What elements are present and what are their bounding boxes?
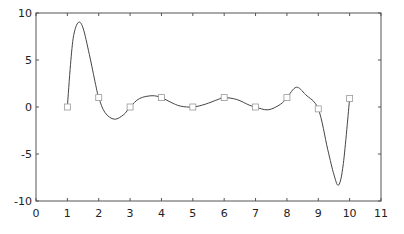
- x-tick-label: 11: [374, 207, 388, 220]
- x-tick-label: 3: [127, 207, 134, 220]
- data-point-marker: [96, 95, 102, 101]
- data-point-marker: [190, 104, 196, 110]
- y-tick-label: -5: [21, 148, 32, 161]
- x-tick-label: 7: [252, 207, 259, 220]
- x-tick-label: 10: [343, 207, 357, 220]
- data-point-marker: [127, 104, 133, 110]
- y-tick-label: 0: [25, 101, 32, 114]
- data-point-marker: [315, 106, 321, 112]
- x-tick-label: 9: [315, 207, 322, 220]
- x-tick-label: 1: [64, 207, 71, 220]
- y-tick-label: 10: [18, 7, 32, 20]
- x-tick-label: 4: [158, 207, 165, 220]
- x-tick-label: 5: [189, 207, 196, 220]
- x-tick-label: 0: [33, 207, 40, 220]
- x-tick-label: 6: [221, 207, 228, 220]
- x-tick-label: 8: [283, 207, 290, 220]
- data-point-marker: [158, 95, 164, 101]
- chart: 01234567891011 -10-50510: [0, 0, 404, 234]
- y-tick-label: 5: [25, 54, 32, 67]
- data-point-marker: [253, 104, 259, 110]
- plot-frame: [36, 13, 381, 201]
- data-point-marker: [64, 104, 70, 110]
- y-tick-label: -10: [14, 195, 32, 208]
- data-point-marker: [347, 96, 353, 102]
- axes-box: [36, 13, 381, 201]
- data-point-marker: [284, 95, 290, 101]
- x-tick-label: 2: [95, 207, 102, 220]
- data-point-marker: [221, 95, 227, 101]
